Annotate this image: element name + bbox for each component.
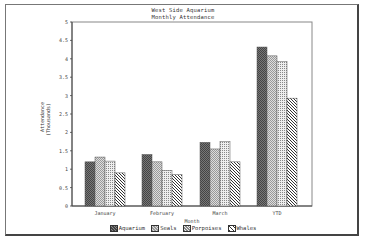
bar-chart: 00.511.522.533.544.55JanuaryFebruaryMarc…	[0, 0, 366, 242]
x-tick-label: February	[150, 210, 174, 217]
y-tick-label: 1.5	[59, 148, 68, 154]
y-tick-label: 0	[65, 203, 68, 209]
legend-label: Porpoises	[192, 225, 222, 231]
bar	[230, 162, 240, 206]
bar	[220, 142, 230, 206]
bar	[85, 162, 95, 206]
bar	[162, 170, 172, 206]
legend-label: Aquarium	[119, 225, 146, 231]
y-tick-label: 1	[65, 166, 68, 172]
y-tick-label: 2	[65, 129, 68, 135]
bar	[95, 157, 105, 206]
bar	[257, 47, 267, 206]
bar	[152, 162, 162, 206]
bar	[105, 161, 115, 206]
legend-item: Whales	[228, 225, 257, 231]
legend-label: Seals	[160, 225, 177, 231]
bar	[200, 142, 210, 206]
y-tick-label: 3	[65, 93, 68, 99]
bar	[210, 149, 220, 206]
x-tick-label: January	[94, 210, 115, 217]
bar	[287, 98, 297, 206]
legend-item: Porpoises	[183, 225, 222, 231]
bar	[142, 154, 152, 206]
legend-item: Aquarium	[110, 225, 146, 231]
legend-swatch	[183, 225, 191, 232]
x-axis-label: Month	[184, 218, 199, 224]
legend-swatch	[228, 225, 236, 232]
legend-swatch	[110, 225, 118, 232]
chart-legend: AquariumSealsPorpoisesWhales	[0, 225, 366, 232]
legend-label: Whales	[237, 225, 257, 231]
x-tick-label: YTD	[272, 210, 281, 216]
y-tick-label: 3.5	[59, 74, 68, 80]
y-tick-label: 2.5	[59, 111, 68, 117]
bar	[115, 173, 125, 206]
bar	[267, 56, 277, 206]
legend-swatch	[151, 225, 159, 232]
y-tick-label: 5	[65, 19, 68, 25]
x-tick-label: March	[212, 210, 227, 216]
y-tick-label: 4.5	[59, 37, 68, 43]
bar	[172, 175, 182, 206]
legend-item: Seals	[151, 225, 177, 231]
bar	[277, 62, 287, 206]
y-tick-label: 4	[65, 56, 68, 62]
y-tick-label: 0.5	[59, 185, 68, 191]
